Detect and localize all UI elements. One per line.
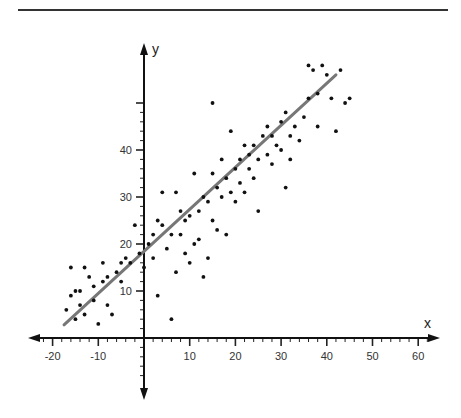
data-point xyxy=(238,158,242,162)
x-tick-label: -20 xyxy=(45,350,61,362)
axes xyxy=(28,43,440,400)
data-point xyxy=(74,317,78,321)
data-point xyxy=(288,134,292,138)
y-axis-up-arrow-icon xyxy=(140,43,148,55)
axis-ticks xyxy=(43,103,427,376)
data-point xyxy=(211,219,215,223)
x-axis-label: x xyxy=(424,315,431,331)
data-point xyxy=(83,266,87,270)
data-point xyxy=(307,64,311,68)
data-point xyxy=(348,96,352,100)
data-point xyxy=(170,317,174,321)
data-point xyxy=(183,219,187,223)
data-point xyxy=(192,172,196,176)
data-point xyxy=(220,158,224,162)
data-point xyxy=(270,162,274,166)
data-point xyxy=(74,289,78,293)
data-point xyxy=(69,294,73,298)
data-point xyxy=(329,96,333,100)
data-point xyxy=(234,200,238,204)
data-point xyxy=(197,209,201,213)
data-point xyxy=(138,252,142,256)
data-point xyxy=(92,299,96,303)
x-tick-label: 20 xyxy=(229,350,241,362)
data-point xyxy=(87,275,91,279)
data-point xyxy=(334,129,338,133)
data-point xyxy=(256,158,260,162)
data-point xyxy=(165,247,169,251)
data-point xyxy=(115,270,119,274)
data-point xyxy=(339,68,343,72)
data-point xyxy=(288,158,292,162)
data-point xyxy=(325,73,329,77)
data-point xyxy=(243,190,247,194)
data-point xyxy=(142,266,146,270)
data-point xyxy=(252,143,256,147)
scatter-chart: -20-1010203040506010203040 x y xyxy=(0,0,461,418)
regression-line xyxy=(64,75,336,325)
data-point xyxy=(156,294,160,298)
data-point xyxy=(320,64,324,68)
data-point xyxy=(179,233,183,237)
y-axis-down-arrow-icon xyxy=(140,388,148,400)
data-point xyxy=(147,242,151,246)
data-point xyxy=(243,143,247,147)
data-point xyxy=(316,92,320,96)
data-point xyxy=(220,195,224,199)
x-axis-left-arrow-icon xyxy=(28,334,40,342)
data-point xyxy=(183,252,187,256)
data-point xyxy=(247,167,251,171)
data-point xyxy=(69,266,73,270)
data-point xyxy=(188,261,192,265)
y-tick-label: 30 xyxy=(120,191,132,203)
data-point xyxy=(174,270,178,274)
data-point xyxy=(265,153,269,157)
data-point xyxy=(64,308,68,312)
data-point xyxy=(202,275,206,279)
data-point xyxy=(284,186,288,190)
data-point xyxy=(106,303,110,307)
x-tick-label: -10 xyxy=(90,350,106,362)
y-tick-label: 40 xyxy=(120,144,132,156)
data-point xyxy=(265,125,269,129)
data-point xyxy=(124,256,128,260)
data-point xyxy=(101,261,105,265)
data-point xyxy=(119,280,123,284)
data-point xyxy=(206,200,210,204)
data-point xyxy=(229,190,233,194)
data-point xyxy=(261,134,265,138)
data-point xyxy=(224,233,228,237)
tick-labels: -20-1010203040506010203040 xyxy=(45,144,425,362)
data-point xyxy=(96,322,100,326)
data-point xyxy=(78,303,82,307)
data-point xyxy=(160,223,164,227)
data-point xyxy=(302,115,306,119)
data-point xyxy=(229,129,233,133)
data-point xyxy=(197,237,201,241)
data-point xyxy=(311,68,315,72)
data-point xyxy=(101,280,105,284)
data-point xyxy=(151,233,155,237)
data-point xyxy=(279,120,283,124)
data-point xyxy=(284,111,288,115)
data-point xyxy=(275,143,279,147)
data-point xyxy=(206,256,210,260)
data-point xyxy=(83,313,87,317)
data-point xyxy=(256,209,260,213)
data-point xyxy=(211,101,215,105)
data-point xyxy=(279,148,283,152)
data-point xyxy=(106,275,110,279)
data-point xyxy=(160,190,164,194)
data-point xyxy=(170,233,174,237)
data-point xyxy=(156,219,160,223)
data-point xyxy=(128,261,132,265)
data-point xyxy=(234,167,238,171)
data-point xyxy=(211,172,215,176)
data-point xyxy=(151,256,155,260)
data-point xyxy=(78,289,82,293)
x-tick-label: 40 xyxy=(321,350,333,362)
x-tick-label: 10 xyxy=(184,350,196,362)
data-point xyxy=(92,284,96,288)
x-tick-label: 30 xyxy=(275,350,287,362)
data-point xyxy=(192,242,196,246)
